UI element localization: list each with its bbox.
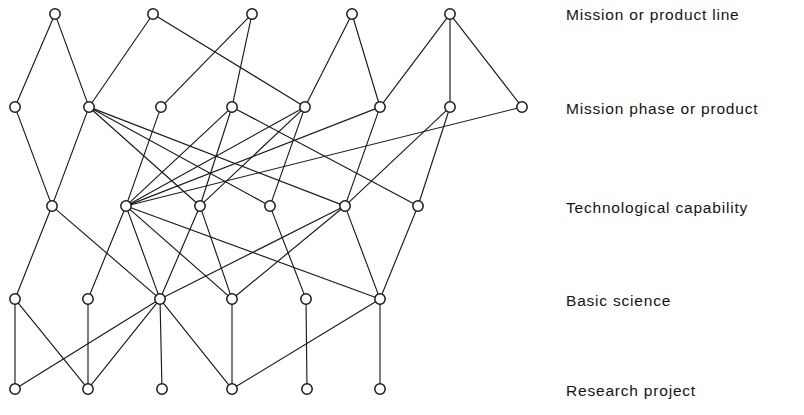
graph-edge xyxy=(165,208,341,296)
graph-edge xyxy=(233,19,251,102)
graph-node-basic-science-2[interactable] xyxy=(83,294,93,304)
graph-edge xyxy=(128,211,158,294)
graph-edge xyxy=(18,303,84,385)
graph-edge xyxy=(90,211,124,294)
graph-edge xyxy=(382,211,416,294)
graph-edge xyxy=(383,18,447,103)
graph-node-research-project-2[interactable] xyxy=(83,384,93,394)
graph-edge xyxy=(17,211,50,294)
graph-edge xyxy=(128,112,160,201)
graph-node-research-project-6[interactable] xyxy=(375,384,385,394)
graph-node-technological-capability-3[interactable] xyxy=(195,201,205,211)
graph-edge xyxy=(131,110,301,204)
graph-edge xyxy=(162,211,198,294)
graph-edge xyxy=(349,111,446,203)
tier-label-mission-or-product-line: Mission or product line xyxy=(566,7,739,23)
graph-edge xyxy=(56,209,156,295)
graph-node-technological-capability-1[interactable] xyxy=(47,201,57,211)
graph-edge xyxy=(131,109,375,204)
graph-edge xyxy=(17,19,53,102)
graph-node-mission-phase-or-product-7[interactable] xyxy=(445,102,455,112)
graph-edge xyxy=(354,19,379,102)
graph-edge xyxy=(453,18,519,103)
graph-node-technological-capability-5[interactable] xyxy=(340,201,350,211)
tier-label-basic-science: Basic science xyxy=(566,293,671,309)
graph-node-mission-phase-or-product-8[interactable] xyxy=(517,102,527,112)
graph-node-mission-phase-or-product-1[interactable] xyxy=(10,102,20,112)
graph-node-research-project-3[interactable] xyxy=(157,384,167,394)
graph-node-mission-phase-or-product-2[interactable] xyxy=(84,102,94,112)
graph-edge xyxy=(157,17,300,105)
tier-label-mission-phase-or-product: Mission phase or product xyxy=(566,101,758,117)
graph-node-mission-or-product-line-3[interactable] xyxy=(247,9,257,19)
graph-node-basic-science-1[interactable] xyxy=(10,294,20,304)
graph-node-basic-science-5[interactable] xyxy=(301,294,311,304)
graph-node-mission-phase-or-product-3[interactable] xyxy=(156,102,166,112)
graph-edge xyxy=(17,112,50,201)
graph-node-mission-phase-or-product-6[interactable] xyxy=(375,102,385,112)
graph-edge xyxy=(420,112,449,201)
graph-edge xyxy=(163,303,229,385)
graph-node-basic-science-4[interactable] xyxy=(227,294,237,304)
graph-node-mission-or-product-line-4[interactable] xyxy=(347,9,357,19)
graph-edge xyxy=(91,303,157,385)
graph-node-research-project-1[interactable] xyxy=(10,384,20,394)
graph-node-research-project-4[interactable] xyxy=(227,384,237,394)
graph-node-mission-or-product-line-1[interactable] xyxy=(50,9,60,19)
graph-edge xyxy=(131,108,517,204)
graph-edge xyxy=(130,209,228,295)
graph-node-mission-phase-or-product-5[interactable] xyxy=(300,102,310,112)
graph-edge xyxy=(347,112,379,201)
graph-edge xyxy=(202,211,231,294)
graph-node-research-project-5[interactable] xyxy=(302,384,312,394)
graph-edge xyxy=(160,304,162,384)
tier-label-research-project: Research project xyxy=(566,383,696,399)
graph-edge xyxy=(54,112,87,201)
graph-node-technological-capability-4[interactable] xyxy=(265,201,275,211)
graph-node-mission-phase-or-product-4[interactable] xyxy=(227,102,237,112)
graph-edge xyxy=(57,19,87,102)
graph-node-basic-science-3[interactable] xyxy=(155,294,165,304)
graph-node-basic-science-6[interactable] xyxy=(375,294,385,304)
graph-node-mission-or-product-line-5[interactable] xyxy=(445,9,455,19)
tier-label-technological-capability: Technological capability xyxy=(566,200,748,216)
graph-node-mission-or-product-line-2[interactable] xyxy=(148,9,158,19)
graph-node-technological-capability-6[interactable] xyxy=(413,201,423,211)
graph-edge xyxy=(307,19,349,103)
graph-node-technological-capability-2[interactable] xyxy=(121,201,131,211)
network-diagram: Mission or product line Mission phase or… xyxy=(0,0,804,415)
graph-edge xyxy=(347,211,378,294)
graph-edge xyxy=(92,18,150,102)
